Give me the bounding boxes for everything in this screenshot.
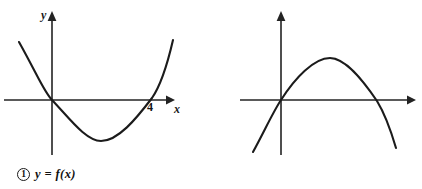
caption-text-1: y = f(x) xyxy=(35,168,76,181)
plot-area-2 xyxy=(211,0,422,189)
panel-graph-2: y x 4 2 y = −f(x) xyxy=(211,0,422,189)
panel-graph-1: y x 4 1 y = f(x) xyxy=(0,0,211,189)
y-axis-label-1: y xyxy=(41,9,46,21)
x-tick-label-4-panel-1: 4 xyxy=(147,101,153,113)
figure-root: y x 4 1 y = f(x) y x 4 2 y = −f(x) xyxy=(0,0,422,189)
caption-number-1: 1 xyxy=(17,168,30,181)
plot-area-1 xyxy=(0,0,211,189)
x-axis-arrow-2 xyxy=(407,96,416,105)
curve-f-of-x xyxy=(19,40,173,141)
curve-negative-f-of-x xyxy=(253,58,396,152)
caption-1: 1 y = f(x) xyxy=(17,168,76,181)
y-axis-arrow-2 xyxy=(277,11,286,21)
x-axis-label-1: x xyxy=(174,103,180,115)
y-axis-arrow-1 xyxy=(48,11,57,21)
